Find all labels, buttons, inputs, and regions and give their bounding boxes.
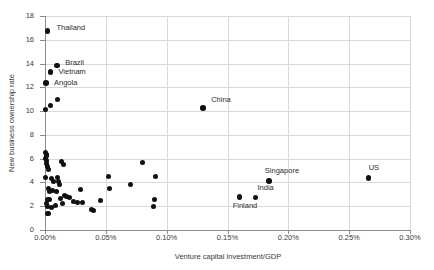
data-point [106,174,111,179]
y-axis-title: New business ownership rate [6,16,17,230]
data-point [47,189,52,194]
data-point [153,174,158,179]
point-label-brazil: Brazil [65,59,84,67]
y-tick-mark [40,40,45,41]
data-point [43,175,48,180]
point-label-india: India [257,184,273,192]
data-point [75,200,80,205]
data-point-china [200,105,206,111]
point-label-us: US [369,164,379,172]
data-point [49,176,54,181]
gridline-vertical [410,16,411,230]
gridline-vertical [228,16,229,230]
data-point-angola [43,80,49,86]
point-label-vietnam: Vietnam [58,68,85,76]
x-tick-label: 0.15% [206,234,250,242]
data-point [128,182,133,187]
gridline-vertical [106,16,107,230]
x-tick-label: 0.00% [23,234,67,242]
y-tick-mark [40,64,45,65]
y-tick-mark [40,16,45,17]
gridline-vertical [288,16,289,230]
x-tick-label: 0.05% [84,234,128,242]
y-tick-mark [40,87,45,88]
point-label-thailand: Thailand [56,24,85,32]
data-point-vietnam [48,69,54,75]
point-label-finland: Finland [233,202,258,210]
y-tick-mark [40,182,45,183]
point-label-china: China [211,96,231,104]
point-label-angola: Angola [54,79,77,87]
data-point [60,201,65,206]
x-axis-title: Venture capital investment/GDP [45,252,411,261]
gridline-vertical [349,16,350,230]
y-axis-title-wrap: New business ownership rate [4,16,16,230]
point-label-singapore: Singapore [265,167,299,175]
x-tick-label: 0.25% [327,234,371,242]
y-tick-mark [40,135,45,136]
x-tick-label: 0.20% [266,234,310,242]
data-point-thailand [45,28,51,34]
gridline-vertical [167,16,168,230]
data-point [61,162,66,167]
x-tick-label: 0.30% [388,234,432,242]
data-point [78,187,83,192]
x-tick-label: 0.10% [145,234,189,242]
data-point-finland [237,194,243,200]
scatter-chart: 024681012141618 0.00%0.05%0.10%0.15%0.20… [0,0,434,270]
